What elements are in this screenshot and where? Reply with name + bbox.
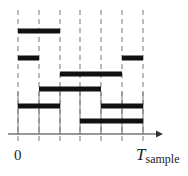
- timing-bar: [80, 119, 143, 124]
- timing-bar: [18, 56, 39, 61]
- time-axis: [8, 131, 163, 138]
- origin-label: 0: [14, 147, 22, 164]
- timing-bar: [101, 104, 143, 109]
- timing-bar: [18, 104, 60, 109]
- timing-bar: [39, 87, 101, 92]
- timing-bar: [18, 29, 60, 34]
- timing-bar: [122, 56, 143, 61]
- arrow-head-icon: [156, 131, 163, 138]
- timing-bar: [60, 72, 122, 77]
- t-sample-label: Tsample: [136, 145, 179, 167]
- sample-subscript: sample: [145, 152, 179, 166]
